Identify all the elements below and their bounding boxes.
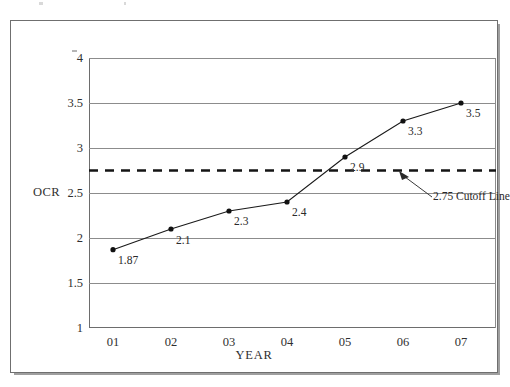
data-point-01 (110, 247, 115, 252)
x-tick-label-07: 07 (455, 335, 468, 350)
data-point-07 (458, 100, 463, 105)
data-point-03 (226, 208, 231, 213)
y-tick-label-1-5: 1.5 (67, 276, 83, 291)
data-label-04: 2.4 (292, 206, 306, 218)
plot-area: 4 3.5 3 2.5 2 1.5 1 01 02 03 04 05 06 07 (89, 58, 496, 328)
y-axis-title: OCR (33, 185, 60, 200)
data-point-05 (342, 154, 347, 159)
x-tick-label-06: 06 (397, 335, 410, 350)
x-tick-label-02: 02 (165, 335, 178, 350)
data-label-07: 3.5 (466, 107, 480, 119)
scan-speckle (124, 2, 126, 5)
data-label-01: 1.87 (118, 254, 138, 266)
x-tick-label-01: 01 (107, 335, 120, 350)
y-tick-label-4: 4 (77, 51, 83, 66)
y-tick-label-1: 1 (77, 321, 83, 336)
x-axis-title: YEAR (11, 348, 497, 363)
data-label-06: 3.3 (408, 125, 422, 137)
cutoff-line-label: 2.75 Cutoff Line (433, 190, 510, 202)
data-point-04 (284, 199, 289, 204)
y-tick-label-3: 3 (77, 141, 83, 156)
data-label-03: 2.3 (234, 215, 248, 227)
x-tick-label-05: 05 (339, 335, 352, 350)
y-tick-label-2: 2 (77, 231, 83, 246)
data-label-05: 2.9 (350, 161, 364, 173)
x-tick-label-04: 04 (281, 335, 294, 350)
x-tick-label-03: 03 (223, 335, 236, 350)
data-point-06 (400, 118, 405, 123)
y-tick-label-2-5: 2.5 (67, 186, 83, 201)
chart-frame: OCR YEAR 4 3.5 3 2.5 2 1.5 1 01 02 03 (10, 20, 498, 373)
data-point-02 (168, 226, 173, 231)
data-label-02: 2.1 (176, 234, 190, 246)
scan-speckle (39, 2, 43, 5)
y-tick-label-3-5: 3.5 (67, 96, 83, 111)
